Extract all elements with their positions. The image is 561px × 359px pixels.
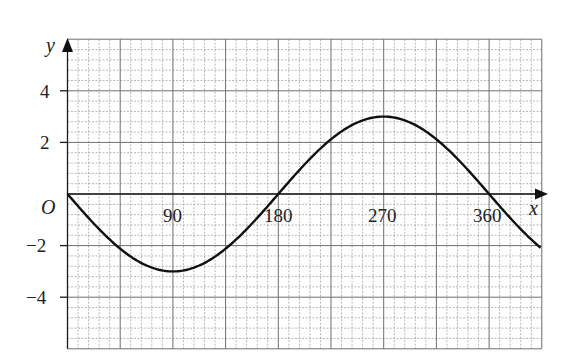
sine-graph: y x O 4 2 −2 −4 90 180 270 360 (0, 0, 561, 359)
y-tick-label-neg2: −2 (26, 235, 46, 256)
y-tick-label-4: 4 (40, 81, 50, 102)
y-axis-label: y (44, 34, 55, 57)
x-tick-label-90: 90 (163, 205, 182, 226)
y-tick-label-2: 2 (40, 132, 50, 153)
origin-label: O (41, 196, 55, 218)
x-tick-label-270: 270 (368, 205, 397, 226)
y-axis-arrow-icon (62, 38, 73, 52)
y-tick-label-neg4: −4 (26, 287, 47, 308)
x-tick-label-180: 180 (264, 205, 293, 226)
x-tick-label-360: 360 (473, 205, 502, 226)
x-axis-label: x (528, 197, 538, 219)
